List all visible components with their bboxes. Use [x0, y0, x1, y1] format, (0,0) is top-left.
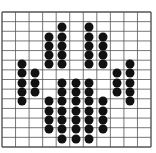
- dot: [99, 97, 108, 106]
- dot: [58, 23, 67, 32]
- dot: [45, 51, 54, 60]
- dot: [18, 88, 27, 97]
- dot: [58, 33, 67, 42]
- dot: [45, 116, 54, 125]
- dot: [113, 88, 122, 97]
- dot: [85, 51, 94, 60]
- dot: [45, 97, 54, 106]
- dot: [126, 88, 135, 97]
- dot: [85, 135, 94, 144]
- dot: [18, 97, 27, 106]
- dot: [58, 116, 67, 125]
- dot: [72, 79, 81, 88]
- dot: [85, 107, 94, 116]
- dot: [85, 125, 94, 134]
- dot: [58, 88, 67, 97]
- dot: [99, 60, 108, 69]
- dot: [99, 125, 108, 134]
- dot: [72, 97, 81, 106]
- dot: [126, 69, 135, 78]
- dot: [31, 79, 40, 88]
- dot: [31, 69, 40, 78]
- dot: [45, 42, 54, 51]
- dot: [113, 69, 122, 78]
- dot: [99, 33, 108, 42]
- dot: [18, 69, 27, 78]
- dot: [72, 116, 81, 125]
- dot: [18, 79, 27, 88]
- dot: [72, 135, 81, 144]
- dot: [58, 51, 67, 60]
- dot: [85, 97, 94, 106]
- dot: [85, 116, 94, 125]
- dot: [85, 42, 94, 51]
- dot: [99, 107, 108, 116]
- dot: [18, 60, 27, 69]
- dot: [72, 88, 81, 97]
- dot: [113, 79, 122, 88]
- dot: [85, 33, 94, 42]
- dot: [45, 33, 54, 42]
- dot: [58, 107, 67, 116]
- dot: [45, 125, 54, 134]
- dot: [85, 23, 94, 32]
- dot: [126, 60, 135, 69]
- dot: [58, 97, 67, 106]
- dot: [99, 116, 108, 125]
- dot: [126, 97, 135, 106]
- dot: [58, 42, 67, 51]
- dot: [58, 125, 67, 134]
- dot: [58, 79, 67, 88]
- dot: [58, 60, 67, 69]
- dot: [99, 51, 108, 60]
- dot: [72, 125, 81, 134]
- dot: [72, 107, 81, 116]
- dot: [45, 60, 54, 69]
- dot: [85, 60, 94, 69]
- dot: [85, 79, 94, 88]
- dot: [58, 135, 67, 144]
- dot: [85, 88, 94, 97]
- dot: [45, 107, 54, 116]
- dot: [31, 88, 40, 97]
- dot: [99, 42, 108, 51]
- dot: [126, 79, 135, 88]
